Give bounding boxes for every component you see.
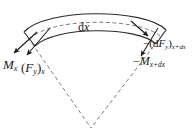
shear-right-label: −(dFy)x+dx xyxy=(143,38,186,51)
shear-left-arrow xyxy=(27,28,50,55)
shear-left-label: (Fy)x xyxy=(21,61,45,76)
moment-right-symbol: M xyxy=(140,54,150,68)
moment-right-sub: x+dx xyxy=(150,60,165,69)
arc-length-label: dx xyxy=(78,21,89,33)
moment-left-arrow xyxy=(14,32,37,53)
shear-left-sub-outer: x xyxy=(41,67,45,76)
arc-length-x: x xyxy=(84,20,89,34)
moment-left-symbol: M xyxy=(3,57,14,72)
outer-arc xyxy=(24,14,166,32)
moment-left-label: Mx xyxy=(3,58,17,73)
inner-arc xyxy=(35,31,156,46)
moment-right-label: −Mx+dx xyxy=(133,55,165,68)
shear-right-sub-outer: x+dx xyxy=(172,43,186,50)
moment-left-sub: x xyxy=(14,64,18,73)
moment-right-sign: − xyxy=(133,54,140,68)
